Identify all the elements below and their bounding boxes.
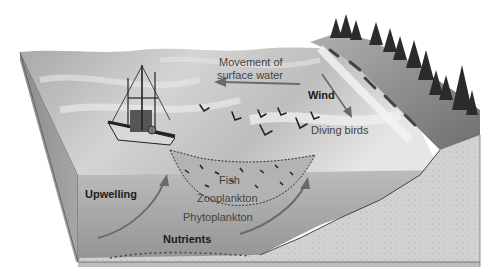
label-wind: Wind xyxy=(308,89,335,101)
label-upwelling: Upwelling xyxy=(85,188,137,200)
label-nutrients: Nutrients xyxy=(163,233,211,245)
label-movement-line2: surface water xyxy=(217,69,283,81)
upwelling-block-diagram xyxy=(0,0,496,278)
label-movement-line1: Movement of xyxy=(219,56,283,68)
label-phytoplankton: Phytoplankton xyxy=(183,211,253,223)
label-diving-birds: Diving birds xyxy=(311,124,368,136)
label-fish: Fish xyxy=(219,174,240,186)
label-zooplankton: Zooplankton xyxy=(197,192,258,204)
